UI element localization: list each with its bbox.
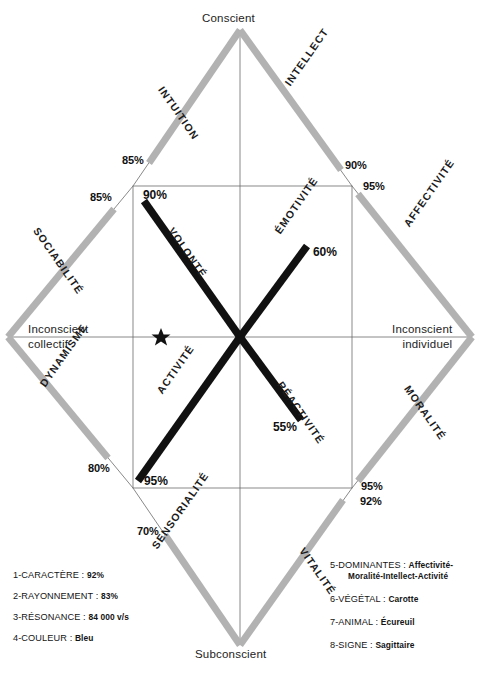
label-inconscient-individuel-line2: individuel [392,337,452,352]
value-intellect: 90% [345,159,367,171]
legend-left-value-1: 92% [87,570,104,580]
bar-emotivite [240,246,307,337]
diagram-canvas: Conscient Subconscient Inconscient colle… [0,0,480,677]
legend-left-value-3: 84 000 v/s [88,612,129,622]
legend-left-item-4: 4-COULEUR : Bleu [13,633,129,643]
bar-sensorialite [165,535,240,645]
legend-right-label-8: 8-SIGNE : [330,640,373,650]
legend-left-label-4: 4-COULEUR : [13,633,72,643]
legend-right-label-6: 6-VÉGÉTAL : [330,594,386,604]
label-conscient: Conscient [202,12,255,24]
value-vitalite: 92% [360,495,382,507]
legend-left-item-2: 2-RAYONNEMENT : 83% [13,591,129,601]
legend-right-item-6: 6-VÉGÉTAL : Carotte [330,594,453,604]
legend-right-item-8: 8-SIGNE : Sagittaire [330,640,453,650]
legend-right-value-8: Sagittaire [375,640,414,650]
value-reactivite: 55% [273,420,297,434]
legend-right-value-7: Écureuil [381,617,415,627]
label-inconscient-individuel: Inconscient individuel [392,322,452,352]
value-sociabilite: 85% [90,191,112,203]
legend-left-value-2: 83% [101,591,118,601]
value-volonte: 90% [143,188,167,202]
value-activite: 95% [144,474,168,488]
legend-right-value-6: Carotte [388,594,418,604]
value-sensorialite: 70% [137,525,159,537]
legend-right-label-7: 7-ANIMAL : [330,617,378,627]
legend-left-value-4: Bleu [75,633,94,643]
value-emotivite: 60% [313,245,337,259]
legend-right-item-7: 7-ANIMAL : Écureuil [330,617,453,627]
label-subconscient: Subconscient [195,648,266,660]
value-affectivite: 95% [363,180,385,192]
legend-right-label-5: 5-DOMINANTES : [330,560,406,570]
legend-right-value-5b: Moralité-Intellect-Activité [348,572,453,581]
legend-left-item-3: 3-RÉSONANCE : 84 000 v/s [13,612,129,622]
bar-intellect [240,30,341,170]
legend-left-label-3: 3-RÉSONANCE : [13,612,86,622]
label-inconscient-individuel-line1: Inconscient [392,322,452,337]
bar-vitalite [240,500,343,645]
legend-right-value-5: Affectivité- [409,560,453,570]
legend-right: 5-DOMINANTES : Affectivité- Moralité-Int… [330,560,453,663]
value-dynamisme: 80% [88,462,110,474]
value-moralite: 95% [361,480,383,492]
legend-left-item-1: 1-CARACTÈRE : 92% [13,570,129,580]
legend-left-label-1: 1-CARACTÈRE : [13,570,84,580]
value-intuition: 85% [122,154,144,166]
legend-left: 1-CARACTÈRE : 92% 2-RAYONNEMENT : 83% 3-… [13,570,129,643]
legend-left-label-2: 2-RAYONNEMENT : [13,591,98,601]
legend-right-item-5: 5-DOMINANTES : Affectivité- Moralité-Int… [330,560,453,581]
